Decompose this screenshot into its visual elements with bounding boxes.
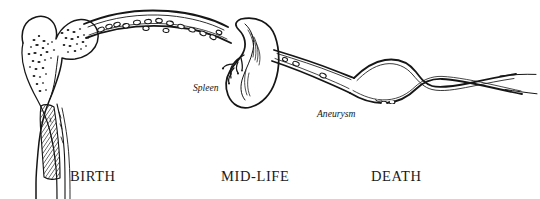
vessel-descend-lower-wall <box>272 61 350 93</box>
vessel-descend-upper-wall <box>274 50 354 78</box>
organ-label-aneurysm: Aneurysm <box>317 108 355 119</box>
marrow-cavity-hatching <box>40 105 60 180</box>
spleen-organ <box>222 18 279 108</box>
aneurysm-bulge <box>350 60 522 106</box>
stage-label-mid-life: MID-LIFE <box>221 168 289 185</box>
stage-label-birth: BIRTH <box>70 168 116 185</box>
blood-vessel-arch <box>84 11 231 43</box>
vessel-tail-upper <box>500 74 536 76</box>
marrow-inner-line-2 <box>62 108 70 199</box>
aneurysm-upper-wall <box>354 60 516 87</box>
anatomical-illustration: BIRTH MID-LIFE DEATH Spleen Aneurysm <box>0 0 540 199</box>
stage-label-death: DEATH <box>371 168 422 185</box>
organ-label-spleen: Spleen <box>193 82 219 93</box>
blood-vessel-descending <box>272 50 354 93</box>
